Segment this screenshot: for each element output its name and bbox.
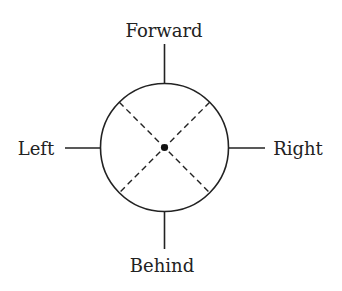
label-behind: Behind: [130, 255, 194, 276]
label-forward: Forward: [125, 20, 202, 41]
label-left: Left: [18, 138, 55, 159]
label-right: Right: [273, 138, 323, 159]
direction-diagram: Forward Left Right Behind: [0, 0, 342, 291]
center-dot: [161, 144, 168, 151]
